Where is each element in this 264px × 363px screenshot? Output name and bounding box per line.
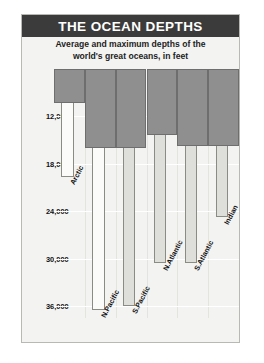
gridline [54,259,239,260]
gridline [54,306,239,307]
gridline [54,211,239,212]
infographic-panel: THE OCEAN DEPTHS Average and maximum dep… [21,14,240,343]
bar-average-depth [208,69,239,146]
bar-average-depth [147,69,178,135]
title-bar: THE OCEAN DEPTHS [22,15,239,37]
gridline [54,164,239,165]
subtitle-line-1: Average and maximum depths of the [22,39,239,51]
bar-average-depth [54,69,85,103]
bar-average-depth [116,69,147,148]
chart-subtitle: Average and maximum depths of the world'… [22,39,239,62]
chart-plot-area [54,69,239,318]
subtitle-line-2: world's great oceans, in feet [22,51,239,63]
bar-average-depth [85,69,116,148]
page-title: THE OCEAN DEPTHS [58,19,202,34]
bar-average-depth [177,69,208,146]
